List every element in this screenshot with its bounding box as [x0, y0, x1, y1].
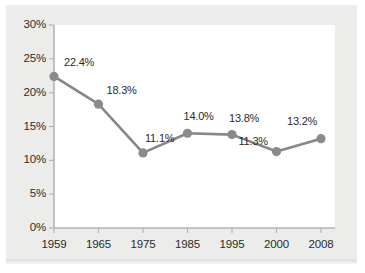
chart-figure: 0%5%10%15%20%25%30% 19591965197519851995…: [0, 0, 365, 273]
data-label-1965: 18.3%: [107, 84, 137, 96]
data-point-2000: [272, 147, 281, 156]
x-tick-label: 2000: [254, 238, 300, 250]
y-tick-label: 15%: [4, 120, 46, 132]
data-label-2008: 13.2%: [287, 115, 317, 127]
y-tick-label: 5%: [4, 187, 46, 199]
y-tick-label: 25%: [4, 52, 46, 64]
x-tick-label: 1985: [165, 238, 211, 250]
y-tick-label: 30%: [4, 18, 46, 30]
x-tick-label: 1965: [76, 238, 122, 250]
data-point-1995: [227, 130, 236, 139]
y-axis: [49, 25, 54, 228]
data-label-2000: 11.3%: [239, 135, 268, 147]
x-tick-label: 2008: [298, 238, 344, 250]
data-label-1975: 11.1%: [145, 132, 174, 144]
data-point-1975: [138, 148, 147, 157]
data-label-1995: 13.8%: [229, 112, 259, 124]
data-label-1985: 14.0%: [184, 110, 214, 122]
data-point-2008: [316, 134, 325, 143]
y-tick-label: 10%: [4, 153, 46, 165]
data-point-1959: [49, 72, 58, 81]
x-tick-label: 1995: [209, 238, 255, 250]
x-tick-label: 1959: [31, 238, 77, 250]
x-tick-label: 1975: [120, 238, 166, 250]
chart-canvas: [0, 0, 365, 273]
x-axis: [54, 228, 335, 233]
data-point-1985: [183, 129, 192, 138]
y-tick-label: 20%: [4, 86, 46, 98]
y-tick-label: 0%: [4, 221, 46, 233]
data-point-1965: [94, 100, 103, 109]
data-label-1959: 22.4%: [64, 56, 94, 68]
